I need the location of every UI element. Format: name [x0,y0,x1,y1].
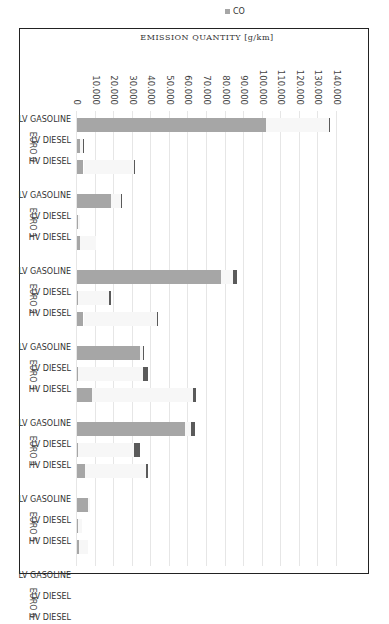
category-label: HV DIESEL [0,157,75,177]
gridline [280,111,281,566]
bar-nox [85,464,145,478]
bar-nox [88,498,90,512]
bar-pm10 [109,291,112,305]
y-tick-label: 20.000 [109,49,119,105]
category-label: LV DIESEL [0,592,75,612]
bar-co [77,194,111,208]
y-tick-label: 70.000 [202,49,212,105]
bar-pm10 [143,367,148,381]
bar-nox [92,388,193,402]
category-label: LV DIESEL [0,136,75,156]
y-tick-label: 130.000 [313,49,323,105]
y-tick-label: 10.000 [91,49,101,105]
category-label: HV DIESEL [0,385,75,405]
group-label: EURO 3 [28,345,37,405]
bar-co [77,422,185,436]
group-label: EURO 5 [28,497,37,557]
legend-swatch-icon [225,9,230,14]
bar-pm10 [84,139,85,153]
bar-nox [221,270,233,284]
gridline [336,111,337,566]
category-label: LV DIESEL [0,288,75,308]
gridline [317,111,318,566]
y-tick-label: 0 [72,49,82,105]
category-label: LV DIESEL [0,212,75,232]
category-label: LV GASOLINE [0,495,75,515]
bar-co [77,270,221,284]
plot-area: 010.00020.00030.00040.00050.00060.00070.… [77,111,337,566]
bar-co [77,464,85,478]
y-tick-label: 120.000 [295,49,305,105]
bar-pm10 [122,194,123,208]
category-label: LV DIESEL [0,440,75,460]
bar-nox [84,160,134,174]
y-tick-label: 140.000 [332,49,342,105]
gridline [113,111,114,566]
group-label: EURO 4 [28,421,37,481]
category-label: LV GASOLINE [0,571,75,591]
category-label: LV GASOLINE [0,267,75,287]
bar-nox [185,422,192,436]
bar-nox [78,519,82,533]
y-tick-label: 110.000 [276,49,286,105]
category-label: LV GASOLINE [0,115,75,135]
bar-nox [78,443,134,457]
bar-nox [84,312,157,326]
y-tick-label: 80.000 [221,49,231,105]
group-label: EURO 6 [28,573,37,624]
bar-co [77,346,140,360]
category-label: LV GASOLINE [0,419,75,439]
bar-co [77,118,266,132]
category-label: HV DIESEL [0,233,75,253]
bar-nox [79,540,88,554]
y-axis-label: EMISSION QUANTITY [g/km] [140,33,273,42]
category-label: LV DIESEL [0,516,75,536]
category-label: LV GASOLINE [0,343,75,363]
gridline [299,111,300,566]
legend-item: NOX [225,0,250,2]
bar-nox [78,367,143,381]
y-tick-label: 90.000 [239,49,249,105]
legend-item: CO [225,7,245,16]
bar-pm10 [146,464,148,478]
emission-chart: EMISSION QUANTITY [g/km] 010.00020.00030… [20,29,367,572]
bar-co [77,312,84,326]
bar-pm10 [193,388,196,402]
y-tick-label: 60.000 [183,49,193,105]
bar-nox [78,291,109,305]
category-label: HV DIESEL [0,537,75,557]
gridline [262,111,263,566]
gridline [169,111,170,566]
bar-pm10 [233,270,237,284]
category-label: HV DIESEL [0,309,75,329]
gridline [187,111,188,566]
y-tick-label: 100.000 [258,49,268,105]
bar-pm10 [329,118,330,132]
category-label: LV DIESEL [0,364,75,384]
bar-nox [266,118,328,132]
y-tick-label: 30.000 [128,49,138,105]
bar-pm10 [157,312,158,326]
category-label: HV DIESEL [0,613,75,624]
gridline [225,111,226,566]
bar-nox [78,215,80,229]
bar-pm10 [134,443,141,457]
category-label: LV GASOLINE [0,191,75,211]
group-label: EURO 0 [28,117,37,177]
gridline [206,111,207,566]
chart-frame: EMISSION QUANTITY [g/km] 010.00020.00030… [19,28,369,574]
bar-co [77,388,92,402]
bar-nox [80,236,96,250]
group-label: EURO 2 [28,269,37,329]
bar-pm10 [191,422,195,436]
bar-nox [111,194,121,208]
category-label: HV DIESEL [0,461,75,481]
bar-pm10 [134,160,135,174]
gridline [243,111,244,566]
bar-co [77,160,84,174]
bar-co [77,498,88,512]
bar-pm10 [143,346,144,360]
group-label: EURO 1 [28,193,37,253]
y-tick-label: 50.000 [165,49,175,105]
gridline [150,111,151,566]
